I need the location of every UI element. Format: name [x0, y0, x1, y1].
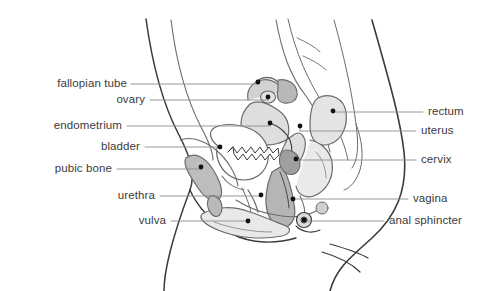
label-urethra: urethra: [118, 190, 155, 202]
callout-dot-ovary: [266, 95, 271, 100]
back-outline-outer: [330, 20, 405, 291]
anatomy-illustration: [0, 0, 494, 291]
vertebra-detail-1: [297, 38, 320, 52]
sacrum-bone-2: [334, 20, 358, 168]
label-bladder: bladder: [101, 141, 140, 153]
callout-dot-vulva: [246, 219, 251, 224]
vertebra-detail-2: [303, 56, 326, 70]
label-cervix: cervix: [421, 154, 452, 166]
callout-dot-anal-sphincter: [302, 218, 307, 223]
callout-dot-urethra: [259, 193, 264, 198]
label-vagina: vagina: [413, 193, 448, 205]
label-ovary: ovary: [116, 94, 145, 106]
callout-dot-rectum: [331, 109, 336, 114]
callout-dot-pubic-bone: [199, 165, 204, 170]
callout-dot-vagina: [291, 197, 296, 202]
callout-dot-bladder: [218, 145, 223, 150]
label-pubic-bone: pubic bone: [55, 163, 112, 175]
label-vulva: vulva: [139, 215, 166, 227]
thigh-front-outline: [164, 190, 190, 291]
label-anal-sphincter: anal sphincter: [389, 215, 462, 227]
label-uterus: uterus: [421, 125, 454, 137]
label-fallopian-tube: fallopian tube: [57, 78, 127, 90]
diagram-canvas: fallopian tubeovaryendometriumbladderpub…: [0, 0, 494, 291]
vagina-canal: [266, 166, 295, 227]
callout-dot-uterus: [298, 124, 303, 129]
callout-dot-fallopian-tube: [256, 80, 261, 85]
perineal-body-circle: [316, 202, 328, 214]
callout-dot-endometrium: [268, 121, 273, 126]
broad-ligament-fimbriae: [277, 80, 297, 104]
label-rectum: rectum: [428, 106, 464, 118]
coccyx: [344, 124, 362, 190]
label-endometrium: endometrium: [54, 120, 122, 132]
pubic-bone-shape: [185, 155, 222, 201]
callout-dot-cervix: [294, 157, 299, 162]
